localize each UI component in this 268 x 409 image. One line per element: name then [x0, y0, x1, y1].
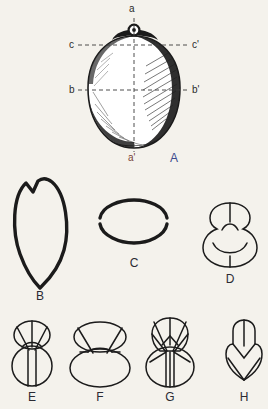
- figure-e-outline: [12, 321, 52, 386]
- axis-label-a: a: [129, 4, 135, 14]
- axis-label-c-prime: c': [192, 40, 199, 50]
- figure-label-c: C: [127, 257, 141, 269]
- illustration-plate: a a' c c' b b' A B C D E F G H: [0, 0, 268, 409]
- axis-label-b-prime: b': [192, 85, 199, 95]
- axis-label-b: b: [69, 85, 75, 95]
- figure-label-h: H: [237, 391, 251, 403]
- figure-d-outline: [203, 203, 257, 267]
- figure-label-g: G: [163, 391, 177, 403]
- figure-label-b: B: [33, 290, 47, 302]
- figure-c-outline: [100, 200, 167, 243]
- figure-label-f: F: [93, 391, 107, 403]
- axis-label-a-prime: a': [128, 153, 135, 163]
- axis-label-c: c: [69, 40, 74, 50]
- figure-label-a: A: [167, 152, 181, 164]
- figure-label-d: D: [223, 273, 237, 285]
- figure-a-seed: [78, 18, 190, 152]
- figure-g-outline: [146, 318, 194, 387]
- plate-artwork: [0, 0, 268, 409]
- figure-h-outline: [226, 320, 262, 380]
- figure-f-outline: [70, 322, 130, 387]
- figure-b-outline: [15, 179, 67, 288]
- figure-label-e: E: [25, 391, 39, 403]
